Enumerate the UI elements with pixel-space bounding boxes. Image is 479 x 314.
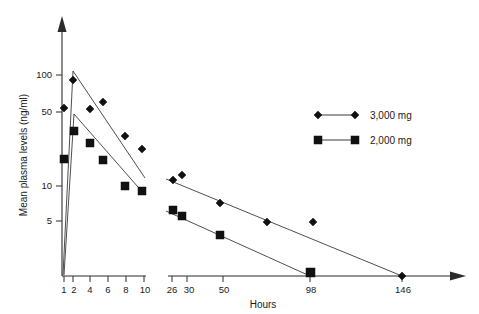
data-point: [398, 272, 406, 280]
legend-marker-diamond-icon: [314, 111, 322, 119]
y-tick-label-50: 50: [41, 106, 52, 117]
x-axis-title: Hours: [250, 299, 277, 310]
pharmacokinetics-chart: 100 50 10 5 Mean plasma levels (ng/ml) 1…: [0, 0, 479, 314]
y-tick-label-10: 10: [41, 180, 52, 191]
x-tick-label-left-6: 6: [105, 284, 110, 295]
data-point: [60, 104, 68, 112]
x-tick-label-left-2: 2: [71, 284, 76, 295]
data-point: [99, 98, 107, 106]
data-point: [309, 218, 317, 226]
legend: 3,000 mg 2,000 mg: [314, 110, 412, 146]
y-tick-label-100: 100: [36, 69, 52, 80]
data-point: [86, 105, 94, 113]
x-tick-label-left-8: 8: [123, 284, 128, 295]
data-point: [121, 132, 129, 140]
data-point: [60, 155, 68, 163]
data-point: [138, 145, 146, 153]
legend-item-3000mg[interactable]: 3,000 mg: [314, 110, 412, 121]
series-2000mg-late-fit: [166, 211, 310, 276]
decay-fit-2000-late: [166, 211, 310, 276]
x-axis-arrow-icon: [450, 272, 466, 281]
data-point: [169, 206, 177, 214]
x-axis-early-panel: 1 2 4 6 8 10: [61, 276, 150, 295]
x-tick-label-left-4: 4: [87, 284, 92, 295]
data-point: [216, 231, 224, 239]
x-tick-label-right-30: 30: [184, 284, 195, 295]
data-point: [178, 171, 186, 179]
y-axis: 100 50 10 5 Mean plasma levels (ng/ml): [18, 16, 67, 276]
data-point: [69, 76, 77, 84]
data-point: [99, 156, 107, 164]
decay-fit-2000-early: [74, 114, 145, 195]
legend-label-3000mg: 3,000 mg: [370, 110, 412, 121]
series-3000mg-late-markers: [169, 171, 406, 280]
data-point: [306, 268, 315, 277]
y-axis-title: Mean plasma levels (ng/ml): [18, 94, 29, 216]
data-point: [121, 182, 129, 190]
y-tick-label-5: 5: [47, 215, 52, 226]
x-tick-label-left-10: 10: [140, 284, 151, 295]
x-tick-label-right-26: 26: [167, 284, 178, 295]
series-2000mg-early-fit: [64, 114, 145, 275]
x-tick-label-right-50: 50: [219, 284, 230, 295]
x-tick-label-right-146: 146: [395, 284, 411, 295]
series-3000mg-late-fit: [166, 179, 402, 276]
legend-marker-diamond-icon: [351, 111, 359, 119]
legend-label-2000mg: 2,000 mg: [370, 135, 412, 146]
y-axis-arrow-icon: [58, 16, 67, 32]
x-tick-label-left-1: 1: [61, 284, 66, 295]
series-3000mg-early-markers: [60, 76, 146, 153]
data-point: [178, 212, 186, 220]
decay-fit-3000-late: [166, 179, 402, 276]
legend-marker-square-icon: [351, 136, 359, 144]
rise-segment-2000: [64, 114, 74, 275]
series-2000mg-late-markers: [169, 206, 315, 277]
data-point: [70, 127, 78, 135]
legend-item-2000mg[interactable]: 2,000 mg: [314, 135, 412, 146]
x-axis-late-panel: 26 30 50 98 146 Hours: [167, 272, 466, 311]
rise-segment-3000: [63, 71, 73, 275]
legend-marker-square-icon: [314, 136, 322, 144]
data-point: [138, 187, 146, 195]
data-point: [86, 139, 94, 147]
x-tick-label-right-98: 98: [306, 284, 317, 295]
